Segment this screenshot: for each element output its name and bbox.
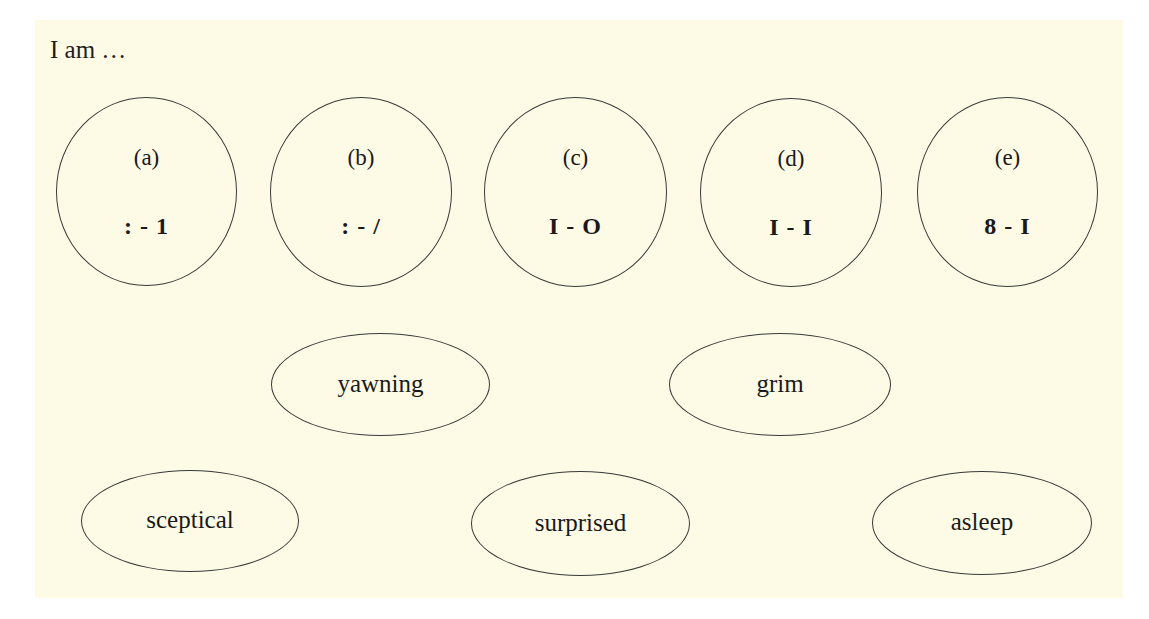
emoticon-label: (a) — [57, 144, 236, 172]
emoticon-circle-a[interactable]: (a) : - 1 — [56, 97, 237, 286]
emoticon-label: (d) — [701, 145, 881, 173]
mood-oval-asleep[interactable]: asleep — [872, 471, 1092, 575]
emoticon-text: I - O — [485, 212, 666, 240]
emoticon-label: (c) — [485, 144, 666, 172]
mood-oval-yawning[interactable]: yawning — [271, 333, 490, 436]
mood-word: sceptical — [146, 505, 233, 535]
emoticon-label: (b) — [271, 144, 451, 172]
emoticon-circle-e[interactable]: (e) 8 - I — [917, 97, 1098, 287]
emoticon-text: I - I — [701, 213, 881, 241]
intro-prompt: I am … — [50, 35, 126, 65]
emoticon-label: (e) — [918, 144, 1097, 172]
emoticon-circle-c[interactable]: (c) I - O — [484, 97, 667, 287]
emoticon-text: 8 - I — [918, 212, 1097, 240]
emoticon-text: : - / — [271, 212, 451, 240]
mood-word: surprised — [535, 508, 627, 538]
mood-oval-grim[interactable]: grim — [669, 333, 891, 436]
mood-oval-sceptical[interactable]: sceptical — [81, 470, 299, 572]
emoticon-text: : - 1 — [57, 212, 236, 240]
mood-oval-surprised[interactable]: surprised — [471, 471, 690, 576]
emoticon-circle-b[interactable]: (b) : - / — [270, 97, 452, 287]
mood-word: asleep — [951, 507, 1013, 537]
emoticon-circle-d[interactable]: (d) I - I — [700, 98, 882, 287]
mood-word: yawning — [337, 369, 423, 399]
mood-word: grim — [756, 369, 803, 399]
